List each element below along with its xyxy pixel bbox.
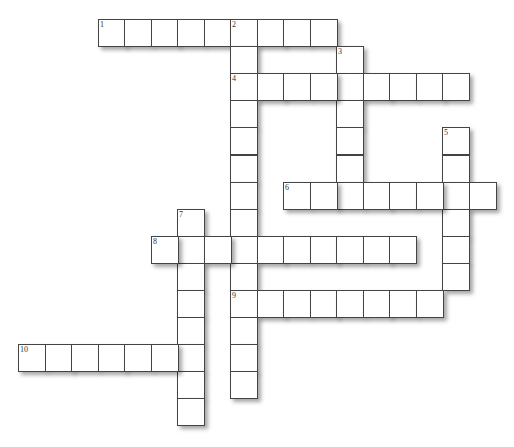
grid-cell[interactable] — [177, 19, 205, 47]
clue-number: 4 — [232, 74, 236, 83]
grid-cell[interactable] — [71, 344, 99, 372]
grid-cell[interactable] — [336, 236, 364, 264]
grid-cell[interactable]: 10 — [18, 344, 46, 372]
grid-cell[interactable] — [177, 236, 205, 264]
grid-cell[interactable]: 7 — [177, 209, 205, 237]
grid-cell[interactable] — [336, 290, 364, 318]
grid-cell[interactable] — [336, 127, 364, 155]
grid-cell[interactable] — [442, 182, 470, 210]
grid-cell[interactable]: 4 — [230, 73, 258, 101]
grid-cell[interactable]: 8 — [151, 236, 179, 264]
grid-cell[interactable] — [363, 290, 391, 318]
grid-cell[interactable]: 3 — [336, 46, 364, 74]
clue-number: 3 — [338, 47, 342, 56]
grid-cell[interactable] — [204, 19, 232, 47]
grid-cell[interactable] — [257, 290, 285, 318]
clue-number: 10 — [20, 345, 28, 354]
grid-cell[interactable]: 9 — [230, 290, 258, 318]
grid-cell[interactable] — [389, 182, 417, 210]
grid-cell[interactable] — [310, 290, 338, 318]
grid-cell[interactable] — [363, 236, 391, 264]
clue-number: 7 — [179, 210, 183, 219]
grid-cell[interactable] — [177, 263, 205, 291]
grid-cell[interactable] — [230, 344, 258, 372]
grid-cell[interactable] — [230, 209, 258, 237]
grid-cell[interactable] — [310, 236, 338, 264]
grid-cell[interactable] — [442, 236, 470, 264]
clue-number: 1 — [100, 20, 104, 29]
grid-cell[interactable] — [230, 100, 258, 128]
grid-cell[interactable] — [230, 182, 258, 210]
grid-cell[interactable] — [230, 46, 258, 74]
grid-cell[interactable] — [363, 182, 391, 210]
crossword-grid: 12493567810 — [0, 0, 514, 447]
grid-cell[interactable] — [416, 290, 444, 318]
grid-cell[interactable] — [283, 73, 311, 101]
grid-cell[interactable] — [363, 73, 391, 101]
grid-cell[interactable] — [283, 290, 311, 318]
grid-cell[interactable] — [336, 100, 364, 128]
clue-number: 2 — [232, 20, 236, 29]
grid-cell[interactable] — [230, 155, 258, 183]
grid-cell[interactable] — [177, 290, 205, 318]
grid-cell[interactable] — [98, 344, 126, 372]
grid-cell[interactable] — [389, 73, 417, 101]
grid-cell[interactable] — [310, 19, 338, 47]
grid-cell[interactable] — [151, 19, 179, 47]
grid-cell[interactable] — [177, 371, 205, 399]
grid-cell[interactable] — [177, 317, 205, 345]
grid-cell[interactable] — [230, 317, 258, 345]
grid-cell[interactable] — [283, 236, 311, 264]
clue-number: 8 — [153, 237, 157, 246]
grid-cell[interactable]: 6 — [283, 182, 311, 210]
grid-cell[interactable] — [310, 73, 338, 101]
grid-cell[interactable] — [336, 182, 364, 210]
grid-cell[interactable]: 2 — [230, 19, 258, 47]
grid-cell[interactable] — [416, 73, 444, 101]
grid-cell[interactable] — [336, 73, 364, 101]
grid-cell[interactable] — [230, 263, 258, 291]
grid-cell[interactable] — [469, 182, 497, 210]
grid-cell[interactable] — [151, 344, 179, 372]
clue-number: 6 — [285, 183, 289, 192]
grid-cell[interactable] — [177, 344, 205, 372]
grid-cell[interactable] — [177, 398, 205, 426]
grid-cell[interactable] — [230, 236, 258, 264]
grid-cell[interactable] — [204, 236, 232, 264]
grid-cell[interactable] — [442, 73, 470, 101]
grid-cell[interactable]: 1 — [98, 19, 126, 47]
grid-cell[interactable]: 5 — [442, 127, 470, 155]
grid-cell[interactable] — [257, 236, 285, 264]
grid-cell[interactable] — [389, 236, 417, 264]
grid-cell[interactable] — [442, 263, 470, 291]
grid-cell[interactable] — [230, 127, 258, 155]
grid-cell[interactable] — [257, 73, 285, 101]
clue-number: 5 — [444, 128, 448, 137]
grid-cell[interactable] — [230, 371, 258, 399]
grid-cell[interactable] — [442, 155, 470, 183]
grid-cell[interactable] — [310, 182, 338, 210]
clue-number: 9 — [232, 291, 236, 300]
grid-cell[interactable] — [124, 344, 152, 372]
grid-cell[interactable] — [257, 19, 285, 47]
grid-cell[interactable] — [336, 155, 364, 183]
grid-cell[interactable] — [416, 182, 444, 210]
grid-cell[interactable] — [389, 290, 417, 318]
grid-cell[interactable] — [442, 209, 470, 237]
grid-cell[interactable] — [283, 19, 311, 47]
grid-cell[interactable] — [45, 344, 73, 372]
grid-cell[interactable] — [124, 19, 152, 47]
